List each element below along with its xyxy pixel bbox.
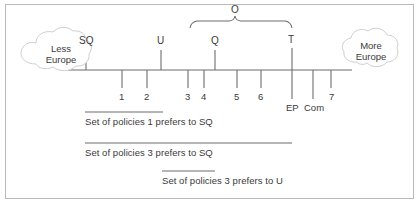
tick-label-com: Com	[304, 103, 324, 113]
tick-label-7: 7	[329, 92, 334, 102]
tick-label-6: 6	[258, 92, 263, 102]
policy-spectrum-figure: O SQ U Q T 1 2 3 4 5 6 EP Com 7 Less Eur…	[0, 0, 419, 204]
less-europe-label: Less Europe	[31, 44, 91, 65]
set-caption-2: Set of policies 3 prefers to SQ	[85, 148, 213, 158]
brace-o	[190, 16, 292, 28]
tick-label-5: 5	[234, 92, 239, 102]
less-europe-label-line2: Europe	[31, 55, 91, 66]
tick-label-2: 2	[144, 92, 149, 102]
set-caption-1: Set of policies 1 prefers to SQ	[85, 117, 213, 127]
tick-label-ep: EP	[286, 103, 299, 113]
more-europe-label-line2: Europe	[342, 52, 400, 63]
tick-label-3: 3	[185, 92, 190, 102]
figure-drawing-canvas	[0, 0, 419, 204]
tick-label-t: T	[288, 35, 294, 45]
tick-label-q: Q	[211, 36, 219, 46]
more-europe-label-line1: More	[342, 41, 400, 52]
tick-label-u: U	[157, 36, 164, 46]
more-europe-label: More Europe	[342, 41, 400, 62]
less-europe-label-line1: Less	[31, 44, 91, 55]
set-caption-3: Set of policies 3 prefers to U	[162, 176, 283, 186]
brace-label-o: O	[231, 5, 239, 15]
tick-label-1: 1	[119, 92, 124, 102]
tick-label-4: 4	[201, 92, 206, 102]
